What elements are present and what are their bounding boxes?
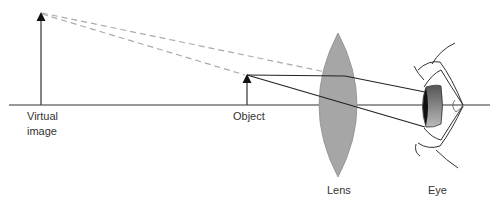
virtual-image-label-line1: Virtual [27, 110, 58, 122]
virtual-image-label-line2: image [27, 125, 57, 137]
eye-label: Eye [428, 184, 447, 196]
lens-label: Lens [327, 184, 351, 196]
dashed-ray-lower [42, 14, 245, 75]
dashed-ray-upper [42, 13, 345, 76]
virtual-image-diagram: Virtual image Object Lens Eye [0, 0, 496, 200]
object-label: Object [233, 110, 265, 122]
